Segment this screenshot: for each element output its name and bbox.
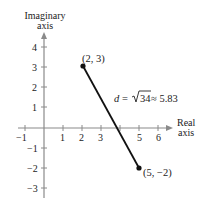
distance-equals: = bbox=[119, 93, 128, 104]
point-label-2-3: (2, 3) bbox=[82, 53, 105, 65]
x-tick-label: 3 bbox=[98, 132, 103, 143]
x-tick-label: 5 bbox=[137, 132, 142, 143]
y-tick-label: −3 bbox=[27, 183, 38, 194]
x-tick-label: 6 bbox=[156, 132, 161, 143]
distance-segment bbox=[83, 66, 139, 168]
svg-text:d =: d = bbox=[114, 93, 128, 104]
real-axis-label-line2: axis bbox=[178, 127, 194, 138]
complex-plane-diagram: −1 1 2 3 5 6 4 3 2 1 −1 −2 −3 Imaginary … bbox=[0, 0, 203, 205]
y-tick-label: −1 bbox=[27, 143, 38, 154]
distance-radicand: 34 bbox=[140, 93, 151, 104]
y-tick-label: 1 bbox=[32, 102, 37, 113]
real-axis-arrow-icon bbox=[166, 125, 173, 131]
y-tick-label: 2 bbox=[32, 82, 37, 93]
y-tick-label: 4 bbox=[32, 42, 37, 53]
distance-label: d = 34 ≈ 5.83 bbox=[114, 91, 178, 104]
x-tick-label: −1 bbox=[16, 132, 27, 143]
imaginary-axis-label-line2: axis bbox=[37, 20, 53, 31]
distance-approx: ≈ 5.83 bbox=[151, 93, 178, 104]
point-label-5-m2: (5, −2) bbox=[143, 167, 172, 179]
y-tick-label: −2 bbox=[27, 163, 38, 174]
imaginary-axis-arrow-icon bbox=[41, 32, 47, 39]
y-tick-label: 3 bbox=[32, 62, 37, 73]
point-2-3 bbox=[80, 63, 85, 68]
x-tick-label: 2 bbox=[79, 132, 84, 143]
x-tick-label: 1 bbox=[60, 132, 65, 143]
point-5-m2 bbox=[136, 165, 141, 170]
